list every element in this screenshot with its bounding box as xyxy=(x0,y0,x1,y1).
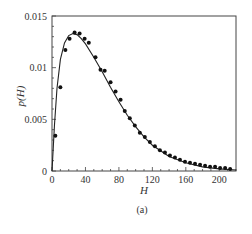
data-point xyxy=(178,158,182,162)
x-tick-label: 80 xyxy=(114,174,124,185)
data-point xyxy=(228,167,232,171)
data-point xyxy=(114,89,118,93)
data-point xyxy=(183,160,187,164)
data-point xyxy=(213,165,217,169)
data-point xyxy=(168,154,172,158)
data-point xyxy=(123,109,127,113)
plot-area xyxy=(52,31,236,171)
data-point xyxy=(153,144,157,148)
data-point xyxy=(93,55,97,59)
data-point xyxy=(163,150,167,154)
data-point xyxy=(143,135,147,139)
y-tick-label: 0.01 xyxy=(30,62,48,73)
data-point xyxy=(63,48,67,52)
data-point xyxy=(193,162,197,166)
data-point xyxy=(148,140,152,144)
x-tick-label: 0 xyxy=(50,174,55,185)
data-point xyxy=(103,69,107,73)
data-point xyxy=(188,161,192,165)
data-point xyxy=(119,98,123,102)
data-point xyxy=(133,124,137,128)
data-point xyxy=(198,163,202,167)
y-tick-label: 0.015 xyxy=(25,11,48,22)
data-point xyxy=(223,166,227,170)
data-point xyxy=(208,165,212,169)
data-point xyxy=(218,166,222,170)
y-axis-label: p(H) xyxy=(14,85,27,107)
data-point xyxy=(99,68,103,72)
chart: 0408012016020000.0050.010.015 H p(H) (a) xyxy=(0,0,252,234)
x-tick-label: 40 xyxy=(80,174,90,185)
data-point xyxy=(83,37,87,41)
fit-curve xyxy=(52,34,236,171)
data-point xyxy=(87,41,91,45)
data-point xyxy=(158,148,162,152)
data-point xyxy=(109,80,113,84)
y-tick-label: 0.005 xyxy=(25,114,48,125)
data-point xyxy=(73,31,77,35)
data-point xyxy=(53,134,57,138)
data-point xyxy=(138,131,142,135)
x-tick-label: 200 xyxy=(212,174,227,185)
data-point xyxy=(128,116,132,120)
figure-caption: (a) xyxy=(136,204,147,216)
y-tick-label: 0 xyxy=(42,166,47,177)
x-axis-label: H xyxy=(139,184,149,196)
data-point xyxy=(78,32,82,36)
data-point xyxy=(68,37,72,41)
plot-frame xyxy=(52,16,236,171)
data-point xyxy=(203,164,207,168)
data-point xyxy=(173,156,177,160)
data-point xyxy=(58,85,62,89)
x-tick-label: 160 xyxy=(178,174,193,185)
